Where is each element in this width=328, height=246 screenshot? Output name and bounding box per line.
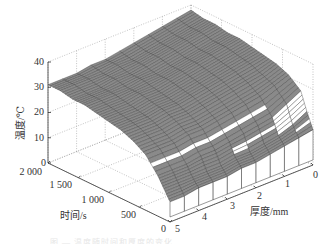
z-tick-30: 30 [34,81,44,92]
z-tick-10: 10 [34,132,44,143]
y-tick-3: 3 [230,200,235,211]
x-tick-2000: 2 000 [20,166,43,177]
x-tick-500: 500 [121,209,136,220]
z-axis-title: 温度/℃ [14,106,26,140]
z-tick-40: 40 [34,56,44,67]
z-tick-20: 20 [34,106,44,117]
x-tick-1500: 1 500 [50,179,73,190]
y-tick-4: 4 [202,211,207,222]
x-tick-0: 0 [161,223,166,234]
temperature-surface [48,10,313,217]
y-axis-title: 厚度/mm [250,205,289,217]
figure-caption: 图 — 温度随时间和厚度的变化 [50,236,290,244]
y-tick-1: 1 [285,178,290,189]
y-tick-0: 0 [313,169,318,180]
x-tick-1000: 1 000 [82,194,105,205]
x-axis-title: 时间/s [60,209,87,221]
surface-chart: 40 30 20 10 0 2 000 1 500 1 000 500 0 5 … [0,0,328,246]
y-tick-5: 5 [175,223,180,234]
y-tick-2: 2 [257,190,262,201]
